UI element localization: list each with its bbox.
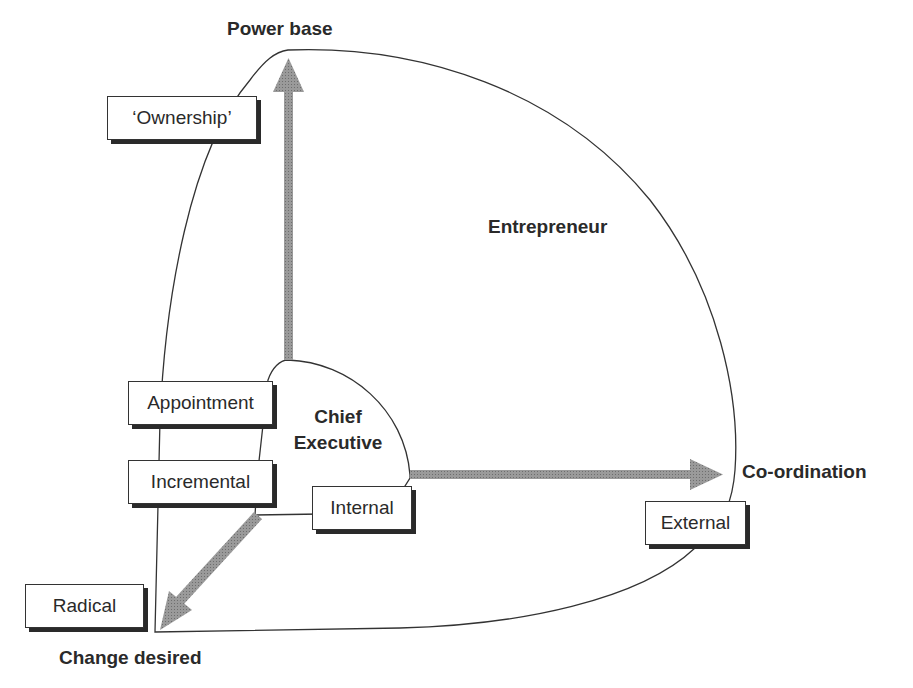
change-desired-axis-label: Change desired [59, 647, 202, 669]
radical-box: Radical [25, 584, 144, 628]
radical-box-label: Radical [53, 595, 116, 617]
internal-box: Internal [312, 486, 412, 530]
entrepreneur-label: Entrepreneur [488, 214, 607, 240]
external-box-label: External [661, 512, 731, 534]
incremental-box: Incremental [128, 460, 273, 504]
change-desired-arrow [160, 512, 262, 630]
power-base-axis-label: Power base [227, 18, 333, 40]
incremental-box-label: Incremental [151, 471, 250, 493]
chief-executive-label-line1: Chief [278, 404, 398, 430]
power-base-arrow [273, 58, 304, 360]
ownership-box-label: ‘Ownership’ [132, 107, 231, 129]
coordination-axis-label: Co-ordination [742, 461, 867, 483]
ownership-box: ‘Ownership’ [107, 96, 257, 140]
chief-executive-label-line2: Executive [278, 430, 398, 456]
appointment-box-label: Appointment [147, 392, 254, 414]
chief-executive-label: Chief Executive [278, 404, 398, 456]
appointment-box: Appointment [128, 381, 273, 425]
external-box: External [645, 501, 746, 545]
coordination-arrow [410, 459, 723, 490]
internal-box-label: Internal [330, 497, 393, 519]
